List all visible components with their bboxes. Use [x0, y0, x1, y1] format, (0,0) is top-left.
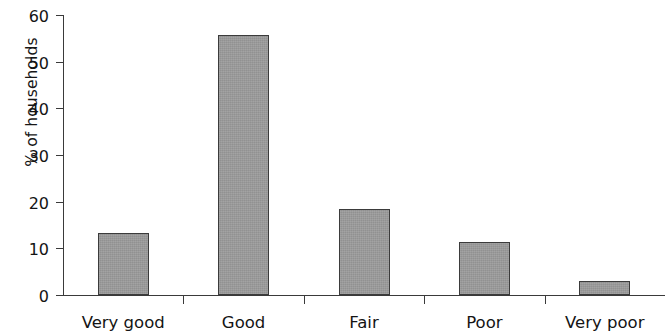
x-axis-line — [63, 295, 665, 296]
y-axis-tick-label: 40 — [29, 100, 49, 119]
x-axis-tick-label: Fair — [349, 313, 378, 332]
x-axis-tick — [545, 295, 546, 304]
bar — [339, 209, 390, 295]
bar — [218, 35, 269, 295]
y-axis-tick-label: 50 — [29, 53, 49, 72]
y-axis-tick: 50 — [56, 62, 63, 63]
bar — [98, 233, 149, 295]
y-axis-tick-label: 60 — [29, 7, 49, 26]
bar-chart: % of households 0102030405060 Very goodG… — [0, 0, 671, 335]
x-axis-tick — [183, 295, 184, 304]
x-axis-tick — [424, 295, 425, 304]
x-axis-tick — [304, 295, 305, 304]
y-axis-tick-label: 10 — [29, 240, 49, 259]
plot-area: 0102030405060 Very goodGoodFairPoorVery … — [63, 15, 665, 295]
x-axis-tick-label: Very poor — [565, 313, 644, 332]
bar — [579, 281, 630, 295]
y-axis-tick: 10 — [56, 248, 63, 249]
y-axis-tick-label: 0 — [39, 287, 49, 306]
y-axis-tick-label: 20 — [29, 193, 49, 212]
y-axis-tick: 30 — [56, 155, 63, 156]
y-axis-tick: 0 — [56, 295, 63, 296]
y-axis-tick: 40 — [56, 108, 63, 109]
y-axis-line — [63, 15, 64, 295]
y-axis-tick: 20 — [56, 202, 63, 203]
y-axis-tick: 60 — [56, 15, 63, 16]
x-axis-tick-label: Poor — [466, 313, 502, 332]
y-axis-tick-label: 30 — [29, 147, 49, 166]
x-axis-tick-label: Good — [222, 313, 265, 332]
x-axis-tick-label: Very good — [82, 313, 165, 332]
bar — [459, 242, 510, 295]
